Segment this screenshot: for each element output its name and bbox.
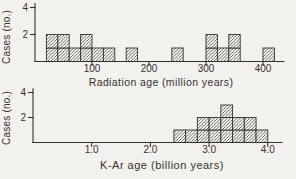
x-tick-label: 200 xyxy=(141,63,158,74)
y-tick-label: 4 xyxy=(22,2,28,13)
histogram-bar-cell xyxy=(81,48,92,62)
histograms-canvas: 24100200300400 Cases (no.) Radiation age… xyxy=(0,0,296,179)
histogram-bar-cell xyxy=(206,35,217,49)
histogram-bar-cell xyxy=(46,48,57,62)
y-tick-label: 4 xyxy=(20,87,26,98)
x-axis-label-radiation: Radiation age (million years) xyxy=(89,76,234,88)
histogram-bar-cell xyxy=(69,48,80,62)
histogram-bar-cell xyxy=(174,130,186,143)
histogram-bar-cell xyxy=(81,35,92,49)
histogram-bar-cell xyxy=(229,48,240,62)
histogram-bar-cell xyxy=(221,130,233,143)
meteorite-age-histograms-figure: 24100200300400 Cases (no.) Radiation age… xyxy=(0,0,296,179)
histogram-bar-cell xyxy=(126,48,137,62)
x-axis-label-kar: K-Ar age (billion years) xyxy=(100,159,224,171)
histogram-bar-cell xyxy=(229,35,240,49)
x-tick-label: 1.0 xyxy=(85,144,99,155)
histogram-bar-cell xyxy=(221,105,233,118)
histogram-bar-cell xyxy=(256,130,268,143)
histogram-bar-cell xyxy=(221,118,233,131)
y-tick-label: 2 xyxy=(22,29,28,40)
histogram-bar-cell xyxy=(92,48,103,62)
histogram-bar-cell xyxy=(172,48,183,62)
x-tick-label: 400 xyxy=(255,63,272,74)
histogram-bar-cell xyxy=(209,130,221,143)
y-axis-label-kar: Cases (no.) xyxy=(1,91,12,145)
histogram-bar-cell xyxy=(46,35,57,49)
histogram-bar-cell xyxy=(209,118,221,131)
histogram-bar-cell xyxy=(244,118,256,131)
x-tick-label: 100 xyxy=(84,63,101,74)
histogram-bar-cell xyxy=(244,130,256,143)
y-axis-label-radiation: Cases (no.) xyxy=(1,10,12,64)
histogram-bar-cell xyxy=(233,130,245,143)
histogram-bar-cell xyxy=(197,118,209,131)
kar-age-histogram: 241.02.03.04.0 xyxy=(20,87,282,155)
histogram-bar-cell xyxy=(263,48,274,62)
x-tick-label: 3.0 xyxy=(202,144,216,155)
x-tick-label: 2.0 xyxy=(143,144,157,155)
histogram-bar-cell xyxy=(58,48,69,62)
histogram-bar-cell xyxy=(103,48,114,62)
histogram-bar-cell xyxy=(58,35,69,49)
x-tick-label: 4.0 xyxy=(261,144,275,155)
radiation-age-histogram: 24100200300400 xyxy=(22,2,284,74)
histogram-bar-cell xyxy=(206,48,217,62)
histogram-bar-cell xyxy=(217,48,228,62)
histogram-bar-cell xyxy=(197,130,209,143)
x-tick-label: 300 xyxy=(198,63,215,74)
histogram-bar-cell xyxy=(186,130,198,143)
histogram-bar-cell xyxy=(233,118,245,131)
y-tick-label: 2 xyxy=(20,112,26,123)
